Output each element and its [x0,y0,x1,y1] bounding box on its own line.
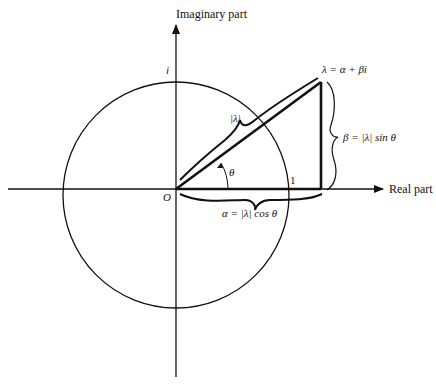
unit-real-label: 1 [290,175,296,186]
modulus-brace [180,78,318,180]
origin-label: O [163,192,171,203]
modulus-label: |λ| [230,113,241,124]
unit-imaginary-label: i [166,65,169,76]
real-component-label: α = |λ| cos θ [222,208,277,219]
real-axis-label: Real part [389,183,433,195]
modulus-vector [176,82,321,189]
imag-brace [327,82,338,190]
point-label: λ = α + βi [322,64,367,75]
imag-component-label: β = |λ| sin θ [343,132,396,143]
complex-plane-diagram [0,0,436,387]
imaginary-axis-label: Imaginary part [176,8,247,20]
angle-label: θ [229,167,234,178]
